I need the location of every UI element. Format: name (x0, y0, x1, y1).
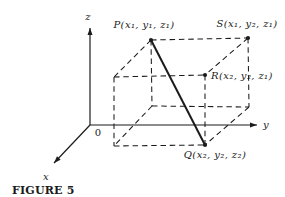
figure-caption: FIGURE 5 (12, 184, 75, 197)
point-label-P: P(x₁, y₁, z₁) (112, 19, 174, 30)
y-axis-arrowhead (250, 123, 257, 128)
box-edge-P-TL (114, 40, 151, 77)
x-axis-label: x (43, 171, 49, 182)
figure-5: zyx0P(x₁, y₁, z₁)S(x₁, y₂, z₁)R(x₂, y₂, … (0, 0, 285, 197)
box-edge-TL-R (114, 75, 205, 77)
box-edge-FL-FR (152, 106, 249, 107)
point-S (246, 36, 250, 40)
point-label-S: S(x₁, y₂, z₁) (216, 18, 277, 29)
point-R (203, 73, 207, 77)
z-axis-label: z (84, 11, 91, 22)
diagonal-PQ (151, 40, 205, 145)
point-Q (203, 143, 207, 147)
origin-label: 0 (95, 127, 101, 138)
y-axis-label: y (262, 119, 269, 130)
box-edge-P-FL (151, 40, 152, 106)
box-edge-FL-BL (114, 106, 152, 146)
point-P (149, 38, 153, 42)
point-label-R: R(x₂, y₂, z₁) (210, 70, 273, 81)
box-edge-P-S (151, 38, 248, 40)
point-label-Q: Q(x₂, y₂, z₂) (184, 149, 247, 160)
box-edge-BL-Q (114, 145, 205, 146)
x-axis-line (54, 125, 90, 163)
coordinate-diagram: zyx0P(x₁, y₁, z₁)S(x₁, y₂, z₁)R(x₂, y₂, … (0, 0, 285, 197)
box-edge-FR-Q (205, 107, 249, 145)
z-axis-arrowhead (88, 28, 93, 35)
